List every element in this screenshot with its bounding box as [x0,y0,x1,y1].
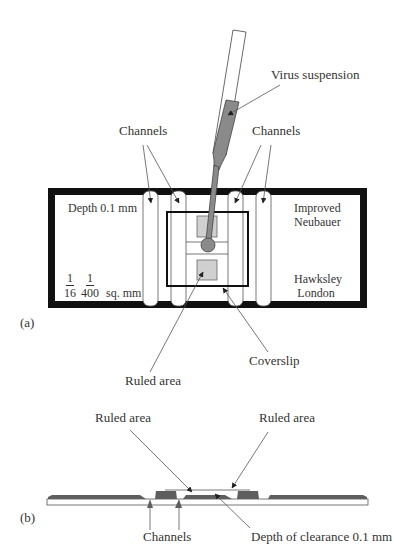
leader-lines-b [130,430,268,528]
label-coverslip: Coverslip [249,353,300,369]
label-channels-right: Channels [252,123,300,139]
label-ruled-area-left-b: Ruled area [95,410,151,426]
label-virus-suspension: Virus suspension [271,67,359,83]
hemocytometer-diagram: Virus suspension Channels Channels Depth… [0,0,394,559]
label-depth: Depth 0.1 mm [68,201,137,216]
panel-a-label: (a) [20,315,34,331]
fraction-1-400-numerator: 1 [86,272,94,286]
label-brand-line2: Neubauer [294,215,338,230]
slide-side-view [47,490,368,508]
label-channels-left: Channels [119,123,167,139]
fraction-1-16-numerator: 1 [66,272,74,286]
fraction-1-400: 1 400 [81,272,99,299]
label-unit: sq. mm [106,286,141,301]
panel-b-label: (b) [20,510,35,526]
label-depth-of-clearance: Depth of clearance 0.1 mm [251,529,392,545]
fraction-1-16: 1 16 [64,272,76,299]
fraction-1-16-denominator: 16 [64,286,76,299]
label-maker-line1: Hawksley [294,272,338,287]
channel-leaders-b [150,508,179,530]
label-channels-b: Channels [143,529,191,545]
fraction-1-400-denominator: 400 [81,286,99,299]
label-maker-line2: London [294,286,338,301]
label-ruled-area: Ruled area [125,373,181,389]
label-brand-line1: Improved [294,201,338,216]
label-ruled-area-right-b: Ruled area [259,410,315,426]
